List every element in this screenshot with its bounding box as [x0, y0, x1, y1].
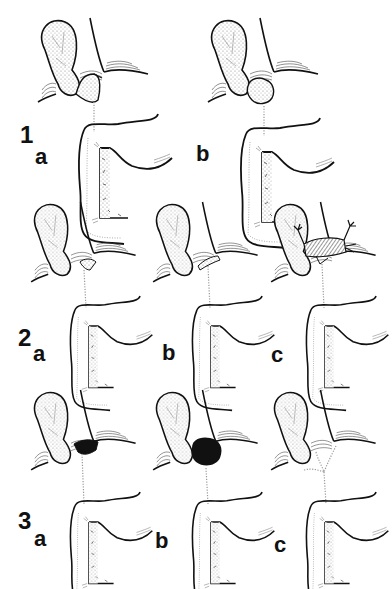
panel-3b-drawing	[134, 392, 264, 589]
panel-1a-drawing	[14, 18, 144, 198]
panel-1a	[14, 18, 144, 198]
anatomical-figure: 1 a b 2 a b	[0, 0, 392, 589]
panel-3a-drawing	[12, 392, 142, 589]
panel-1b-drawing	[194, 18, 324, 198]
panel-2b	[134, 204, 264, 384]
panel-letter-3a: a	[34, 528, 46, 550]
panel-letter-1b: b	[196, 143, 209, 165]
row-number-3: 3	[18, 509, 31, 533]
panel-letter-3b: b	[155, 530, 168, 552]
panel-letter-2a: a	[33, 343, 45, 365]
panel-3c	[254, 392, 392, 589]
panel-2a	[12, 204, 142, 384]
panel-1b	[194, 18, 324, 198]
panel-letter-2b: b	[162, 342, 175, 364]
panel-letter-3c: c	[274, 534, 286, 556]
panel-3c-drawing	[254, 392, 392, 589]
panel-3a	[12, 392, 142, 589]
panel-2b-drawing	[134, 204, 264, 384]
panel-3b	[134, 392, 264, 589]
panel-2a-drawing	[12, 204, 142, 384]
row-number-1: 1	[20, 123, 33, 147]
panel-letter-1a: a	[35, 146, 47, 168]
panel-letter-2c: c	[271, 344, 283, 366]
row-number-2: 2	[18, 326, 31, 350]
